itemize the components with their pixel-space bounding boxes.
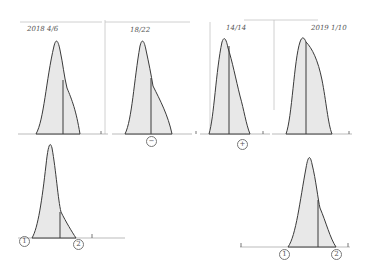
curve-2-label: 18/22 <box>130 26 150 34</box>
curve-3-label: 14/14 <box>226 24 246 32</box>
bottom-1-left-marker: 1 <box>19 236 30 247</box>
distribution-curve-3 <box>209 39 250 134</box>
distribution-curve-2 <box>125 41 172 134</box>
bottom-1-right-marker: 2 <box>73 239 84 250</box>
distribution-curve-6 <box>241 158 348 247</box>
distribution-curve-5 <box>32 145 92 238</box>
plus-marker: + <box>237 139 248 150</box>
distribution-curve-4 <box>286 38 332 134</box>
bottom-2-left-marker: 1 <box>279 249 290 260</box>
minus-marker: − <box>146 136 157 147</box>
bottom-2-right-marker: 2 <box>331 249 342 260</box>
curve-4-label: 2019 1/10 <box>311 24 347 32</box>
distribution-curve-1 <box>36 41 80 134</box>
sketch-canvas <box>0 0 374 272</box>
curve-1-label: 2018 4/6 <box>27 25 58 33</box>
